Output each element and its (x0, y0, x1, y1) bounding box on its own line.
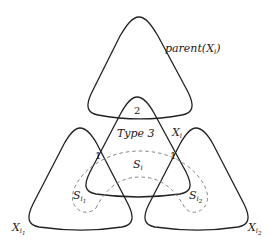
overlap-parent-count: 2 (134, 105, 140, 116)
parent-label: parent(Xi) (165, 42, 221, 56)
si-label: Si (133, 158, 143, 172)
xi2-label: Xi2 (247, 221, 262, 236)
overlap-right-count: 1 (170, 150, 176, 161)
si2-label: Si2 (189, 189, 203, 204)
overlap-left-count: 1 (95, 150, 101, 161)
si1-label: Si1 (73, 189, 86, 204)
parent-triangle (88, 17, 192, 119)
xi2-triangle (145, 128, 248, 230)
xi-label: Xi (171, 126, 182, 140)
xi1-label: Xi1 (11, 221, 26, 236)
xi1-triangle (29, 128, 132, 230)
type-label: Type 3 (117, 127, 155, 140)
tree-decomposition-diagram: parent(Xi) 2 Type 3 Xi 1 1 Si Si1 Si2 Xi… (0, 0, 278, 247)
